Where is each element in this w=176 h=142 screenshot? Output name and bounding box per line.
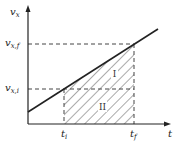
tf-label: tf (130, 128, 138, 141)
vxf-label: vx,f (5, 37, 21, 50)
region-ii-label: II (99, 102, 107, 112)
velocity-time-diagram: vx vx,f vx,i ti tf t I II (0, 0, 176, 142)
region-i-label: I (113, 69, 117, 79)
x-axis-arrow-icon (164, 122, 171, 127)
vxi-label: vx,i (5, 82, 19, 95)
ti-label: ti (61, 128, 67, 141)
y-axis-label: vx (10, 6, 20, 19)
y-axis-arrow-icon (26, 5, 31, 12)
x-axis-label: t (168, 128, 173, 139)
